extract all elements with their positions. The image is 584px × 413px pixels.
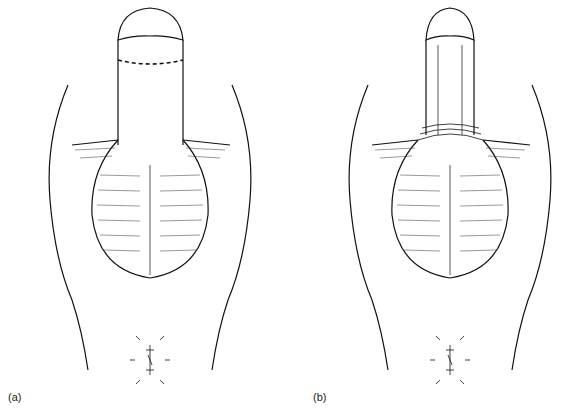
panel-label-a: (a) bbox=[8, 391, 21, 403]
anatomical-illustration-b bbox=[292, 0, 584, 413]
figure-panel-a: (a) bbox=[0, 0, 292, 413]
figure-panel-b: (b) bbox=[292, 0, 584, 413]
panel-label-b: (b) bbox=[313, 391, 326, 403]
anatomical-illustration-a bbox=[0, 0, 292, 413]
